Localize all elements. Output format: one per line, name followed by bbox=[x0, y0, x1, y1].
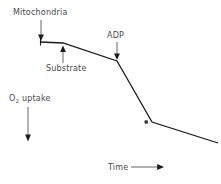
o2-uptake-trace bbox=[40, 42, 218, 143]
label-mitochondria: Mitochondria bbox=[13, 8, 67, 17]
label-adp: ADP bbox=[107, 31, 124, 40]
label-o2-uptake: O2 uptake bbox=[9, 94, 51, 104]
label-substrate: Substrate bbox=[46, 64, 87, 73]
o2-uptake-axis-arrow bbox=[25, 107, 31, 142]
label-o2-uptake-subscript: 2 bbox=[16, 98, 20, 104]
label-time: Time bbox=[108, 163, 128, 172]
o2-uptake-figure: Mitochondria Substrate ADP O2 uptake Tim… bbox=[0, 0, 221, 184]
mitochondria-arrow bbox=[38, 20, 44, 41]
time-axis-arrow bbox=[131, 164, 164, 170]
trace-canvas bbox=[0, 0, 221, 184]
asterisk-mark bbox=[145, 120, 148, 123]
adp-arrow bbox=[114, 42, 120, 60]
label-o2-uptake-element: O bbox=[9, 94, 16, 103]
substrate-arrow bbox=[60, 46, 66, 64]
label-o2-uptake-word: uptake bbox=[19, 94, 50, 103]
